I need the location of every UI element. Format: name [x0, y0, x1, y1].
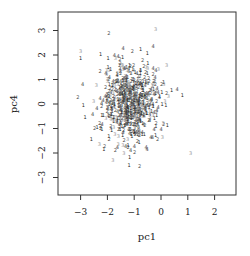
data-point: 1 [137, 80, 140, 86]
data-point: 2 [76, 94, 79, 100]
data-point: 1 [146, 50, 149, 56]
data-point: 4 [81, 81, 84, 87]
data-point: 2 [107, 136, 110, 142]
data-point: 2 [145, 78, 148, 84]
y-tick-label: 3 [37, 27, 47, 33]
data-point: 2 [119, 70, 122, 76]
data-point: 4 [159, 126, 162, 132]
data-point: 3 [162, 81, 165, 87]
data-point: 1 [181, 92, 184, 98]
data-point: 4 [113, 52, 116, 58]
data-point: 1 [139, 70, 142, 76]
data-point: 2 [106, 105, 109, 111]
data-point: 4 [105, 99, 108, 105]
data-point: 1 [119, 119, 122, 125]
data-point: 1 [170, 87, 173, 93]
data-point: 3 [133, 88, 136, 94]
data-point: 4 [121, 129, 124, 135]
data-point: 3 [125, 67, 128, 73]
y-tick-label: −1 [37, 122, 47, 135]
data-point: 4 [151, 43, 154, 49]
data-point: 3 [98, 141, 101, 147]
data-point: 2 [114, 86, 117, 92]
data-point: 1 [100, 112, 103, 118]
data-point: 1 [160, 101, 163, 107]
data-point: 1 [84, 114, 87, 120]
data-point: 2 [114, 147, 117, 153]
x-tick-label: 1 [185, 207, 191, 217]
data-point: 3 [157, 66, 160, 72]
data-point: 3 [167, 93, 170, 99]
x-tick-label: 2 [212, 207, 218, 217]
data-point: 2 [118, 102, 121, 108]
y-tick-label: 0 [37, 101, 47, 107]
x-tick-label: −1 [128, 207, 141, 217]
data-point: 1 [139, 46, 142, 52]
data-point: 2 [103, 143, 106, 149]
y-tick-label: −2 [37, 146, 47, 159]
data-point: 2 [112, 93, 115, 99]
y-tick-label: 1 [37, 77, 47, 83]
data-point: 4 [144, 105, 147, 111]
data-point: 1 [128, 154, 131, 160]
data-point: 2 [107, 30, 110, 36]
y-tick-label: −3 [37, 171, 47, 185]
data-point: 1 [109, 66, 112, 72]
x-axis-label: pc1 [138, 231, 156, 242]
data-point: 3 [165, 62, 168, 68]
data-point: 3 [105, 67, 108, 73]
data-point: 1 [141, 82, 144, 88]
data-point: 2 [152, 78, 155, 84]
data-point: 2 [133, 149, 136, 155]
data-point: 1 [128, 162, 131, 168]
data-point: 1 [146, 60, 149, 66]
data-point: 2 [108, 113, 111, 119]
data-point: 1 [126, 116, 129, 122]
data-point: 2 [138, 163, 141, 169]
data-point: 2 [109, 85, 112, 91]
data-point: 3 [110, 108, 113, 114]
data-point: 1 [112, 114, 115, 120]
data-point: 3 [143, 95, 146, 101]
data-point: 2 [155, 120, 158, 126]
data-point: 4 [142, 121, 145, 127]
data-point: 4 [129, 147, 132, 153]
data-point: 1 [79, 55, 82, 61]
x-tick-label: −3 [74, 207, 88, 217]
data-point: 2 [93, 125, 96, 131]
data-point: 3 [126, 136, 129, 142]
data-point: 4 [148, 117, 151, 123]
x-tick-label: −2 [101, 207, 114, 217]
data-point: 4 [117, 53, 120, 59]
data-point: 1 [133, 97, 136, 103]
data-point: 3 [126, 81, 129, 87]
data-point: 4 [129, 87, 132, 93]
data-point: 4 [156, 104, 159, 110]
data-point: 3 [162, 120, 165, 126]
data-point: 2 [131, 48, 134, 54]
data-point: 2 [107, 93, 110, 99]
data-point: 3 [92, 98, 95, 104]
data-point: 1 [120, 109, 123, 115]
data-point: 4 [124, 143, 127, 149]
data-point: 1 [154, 132, 157, 138]
x-tick-label: 0 [158, 207, 164, 217]
data-point: 4 [121, 94, 124, 100]
data-point: 3 [154, 26, 157, 32]
data-point: 4 [139, 111, 142, 117]
data-point: 3 [106, 76, 109, 82]
data-point: 3 [122, 150, 125, 156]
data-point: 4 [95, 105, 98, 111]
data-point: 3 [117, 141, 120, 147]
data-point: 2 [141, 57, 144, 63]
data-point: 1 [121, 54, 124, 60]
data-point: 1 [125, 103, 128, 109]
data-point: 3 [111, 157, 114, 163]
data-point: 2 [143, 112, 146, 118]
data-point: 1 [100, 126, 103, 132]
data-point: 4 [135, 70, 138, 76]
data-point: 1 [138, 139, 141, 145]
data-point: 1 [154, 90, 157, 96]
data-point: 1 [133, 128, 136, 134]
data-point: 1 [106, 55, 109, 61]
